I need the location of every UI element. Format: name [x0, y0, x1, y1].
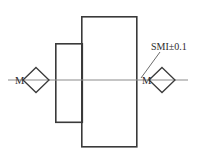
large-rectangle [82, 17, 137, 147]
right-mark-label: M [142, 75, 152, 86]
technical-diagram: M M SMI±0.1 [0, 0, 197, 160]
tolerance-callout-label: SMI±0.1 [151, 41, 187, 52]
small-rectangle [56, 44, 83, 123]
left-mark-label: M [15, 75, 25, 86]
diagram-canvas: M M SMI±0.1 [0, 0, 197, 160]
